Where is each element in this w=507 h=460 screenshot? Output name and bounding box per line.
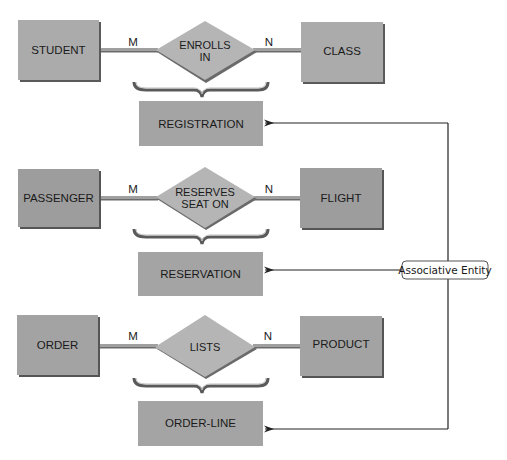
callout-label: Associative Entity [398,264,491,276]
relationship-label-line1: LISTS [190,341,221,353]
brace-icon [134,378,268,393]
connector-left-shadow [99,199,158,201]
cardinality-n: N [265,36,273,48]
cardinality-m: M [128,36,138,48]
row-lists: ORDER LISTS M N PRODUCT ORDER-LINE [17,315,384,446]
relationship-label-line1: RESERVES [175,186,235,198]
brace-icon [134,82,268,97]
cardinality-n: N [264,330,272,342]
connector-right-shadow [253,347,301,349]
brace-highlight-icon [136,378,266,390]
connector-right-shadow [253,51,302,53]
brace-highlight-icon [136,82,266,94]
entity-class-label: CLASS [323,45,361,57]
relationship-label-line2: IN [200,51,211,63]
brace-icon [134,229,268,244]
entity-passenger-label: PASSENGER [23,192,94,204]
entity-student-label: STUDENT [31,44,85,56]
entity-order-label: ORDER [37,339,79,351]
row-reserves: PASSENGER RESERVES SEAT ON M N FLIGHT RE… [18,167,384,296]
row-enrolls: STUDENT ENROLLS IN M N CLASS REGISTRATIO… [18,20,385,146]
brace-highlight-icon [136,229,266,241]
entity-flight-label: FLIGHT [321,192,362,204]
cardinality-m: M [128,330,138,342]
associative-entity-order-line-label: ORDER-LINE [165,417,236,429]
cardinality-m: M [128,183,138,195]
relationship-label-line2: SEAT ON [181,198,228,210]
relationship-label-line1: ENROLLS [179,39,230,51]
er-diagram: STUDENT ENROLLS IN M N CLASS REGISTRATIO… [0,0,507,460]
connector-right-shadow [253,199,302,201]
connector-left-shadow [98,347,158,349]
associative-entity-reservation-label: RESERVATION [160,268,241,280]
associative-entity-registration-label: REGISTRATION [158,118,243,130]
connector-left-shadow [99,51,158,53]
cardinality-n: N [265,183,273,195]
entity-product-label: PRODUCT [313,338,370,350]
